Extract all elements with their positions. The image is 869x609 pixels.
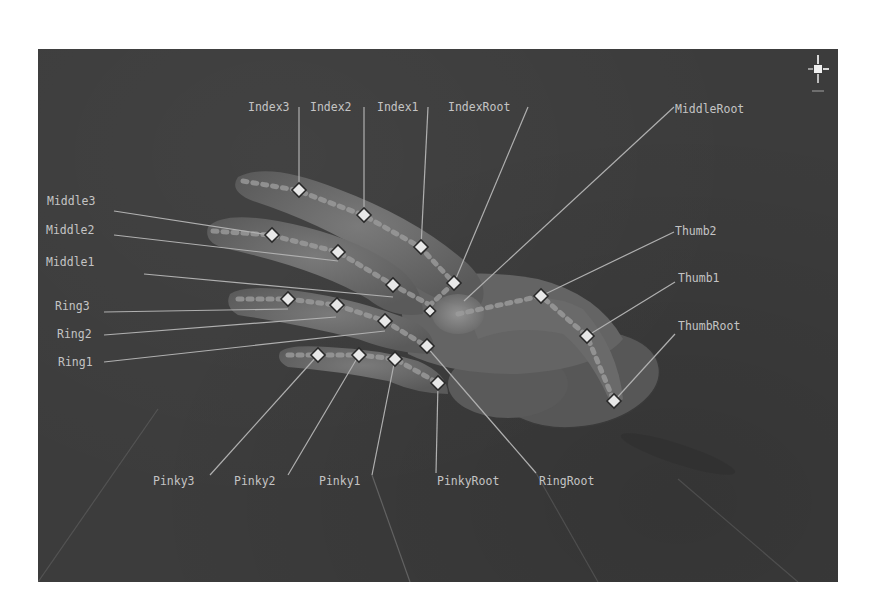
label-ring1: Ring1 xyxy=(58,356,93,368)
label-pinky1: Pinky1 xyxy=(319,475,361,487)
label-pinky2: Pinky2 xyxy=(234,475,276,487)
label-ring2: Ring2 xyxy=(57,328,92,340)
label-pinky-root: PinkyRoot xyxy=(437,475,499,487)
label-ring-root: RingRoot xyxy=(539,475,594,487)
label-middle1: Middle1 xyxy=(46,256,94,268)
label-index1: Index1 xyxy=(377,101,419,113)
label-ring3: Ring3 xyxy=(55,300,90,312)
model-shadow xyxy=(618,426,738,482)
3d-viewport[interactable]: Index3 Index2 Index1 IndexRoot MiddleRoo… xyxy=(38,49,838,582)
label-thumb2: Thumb2 xyxy=(675,225,717,237)
label-middle-root: MiddleRoot xyxy=(675,103,744,115)
label-thumb1: Thumb1 xyxy=(678,272,720,284)
label-pinky3: Pinky3 xyxy=(153,475,195,487)
label-index-root: IndexRoot xyxy=(448,101,510,113)
label-middle3: Middle3 xyxy=(47,195,95,207)
view-orientation-gizmo-icon[interactable] xyxy=(804,53,832,97)
label-index3: Index3 xyxy=(248,101,290,113)
label-thumb-root: ThumbRoot xyxy=(678,320,740,332)
hand-model-scene xyxy=(38,49,838,582)
label-index2: Index2 xyxy=(310,101,352,113)
label-middle2: Middle2 xyxy=(46,224,94,236)
